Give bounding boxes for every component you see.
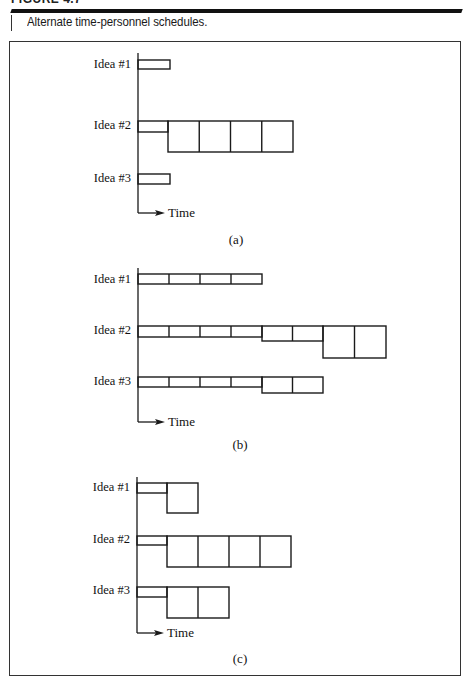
idea-row: Idea #3 (93, 583, 229, 618)
idea-label: Idea #1 (94, 272, 131, 286)
idea-label: Idea #2 (94, 118, 131, 132)
idea-row: Idea #3 (94, 374, 323, 393)
idea-row: Idea #3 (94, 171, 170, 185)
idea-label: Idea #3 (94, 171, 131, 185)
panel-label: (b) (232, 437, 247, 452)
schedule-block (167, 483, 198, 513)
time-axis-label: Time (167, 625, 194, 640)
schedule-block (138, 174, 170, 184)
idea-label: Idea #1 (93, 480, 130, 494)
idea-row: Idea #2 (93, 532, 291, 567)
idea-label: Idea #2 (93, 532, 130, 546)
idea-row: Idea #2 (94, 118, 293, 152)
time-axis-label: Time (168, 205, 195, 220)
schedule-block (138, 121, 168, 132)
idea-label: Idea #2 (94, 323, 131, 337)
idea-label: Idea #3 (94, 374, 131, 388)
schedule-diagram: Time(a)Idea #1Idea #2Idea #3Time(b)Idea … (0, 0, 467, 691)
panel-label: (a) (229, 232, 243, 247)
panel-a: Time(a)Idea #1Idea #2Idea #3 (94, 53, 293, 247)
schedule-block (137, 587, 167, 597)
idea-row: Idea #1 (93, 480, 198, 513)
time-axis-label: Time (168, 414, 195, 429)
panel-label: (c) (233, 651, 247, 666)
panel-c: Time(c)Idea #1Idea #2Idea #3 (93, 477, 291, 666)
schedule-block (137, 536, 167, 545)
idea-row: Idea #1 (94, 272, 262, 286)
schedule-block (138, 60, 170, 69)
schedule-block (137, 483, 167, 493)
idea-label: Idea #3 (93, 583, 130, 597)
panel-b: Time(b)Idea #1Idea #2Idea #3 (94, 268, 386, 452)
idea-label: Idea #1 (94, 57, 131, 71)
idea-row: Idea #1 (94, 57, 170, 71)
